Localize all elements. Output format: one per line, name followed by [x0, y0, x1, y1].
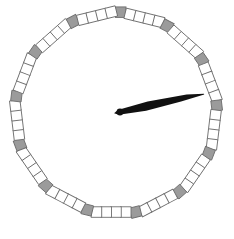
dial-tick-segment [101, 207, 112, 218]
dial-tick-segment [105, 6, 118, 19]
needle-body [114, 94, 204, 115]
dial-tick-segment [111, 207, 122, 218]
dial-tick-segment [121, 207, 132, 218]
polygonal-dial-gauge [0, 0, 234, 239]
dial-needle [114, 94, 204, 116]
needle-pivot [117, 109, 124, 116]
dial-svg-canvas [0, 0, 234, 239]
